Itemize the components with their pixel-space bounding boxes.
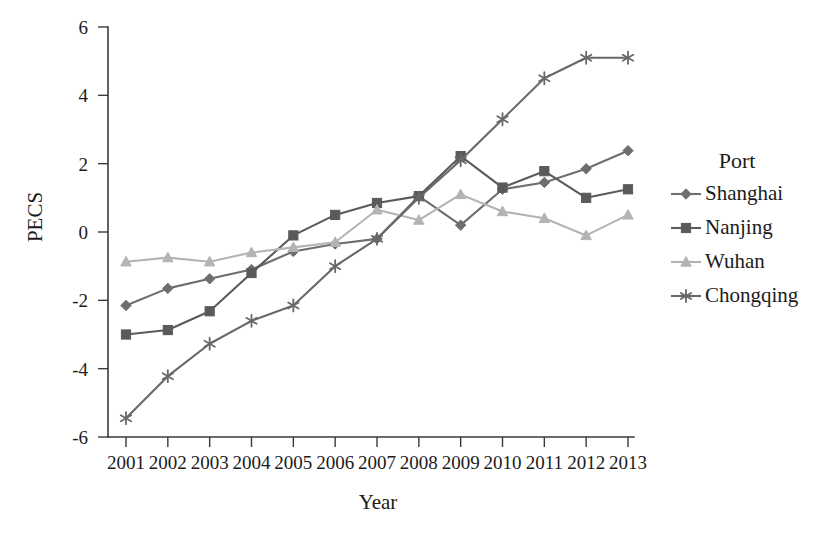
legend-item-shanghai[interactable]: Shanghai: [671, 181, 783, 205]
data-point-marker: [204, 274, 214, 284]
data-point-marker: [540, 167, 549, 176]
x-tick-label: 2009: [442, 452, 480, 473]
data-point-marker: [582, 193, 591, 202]
legend-item-label: Chongqing: [705, 283, 799, 307]
data-point-marker: [623, 185, 632, 194]
y-tick-label: 2: [79, 154, 89, 175]
y-tick-label: 4: [79, 85, 89, 106]
y-axis: -6-4-20246: [72, 17, 108, 448]
legend-item-chongqing[interactable]: Chongqing: [671, 283, 799, 307]
data-point-marker: [623, 210, 633, 220]
legend-item-label: Wuhan: [705, 249, 765, 273]
y-tick-label: -4: [72, 359, 88, 380]
x-tick-label: 2008: [400, 452, 438, 473]
chart-figure: -6-4-20246 20012002200320042005200620072…: [0, 0, 833, 534]
x-axis: 2001200220032004200520062007200820092010…: [107, 437, 647, 473]
x-tick-label: 2010: [484, 452, 522, 473]
x-tick-label: 2013: [609, 452, 647, 473]
x-tick-label: 2003: [191, 452, 229, 473]
data-point-marker: [247, 268, 256, 277]
y-tick-label: -2: [72, 290, 88, 311]
data-point-marker: [498, 183, 507, 192]
legend-item-wuhan[interactable]: Wuhan: [671, 249, 765, 273]
x-tick-label: 2005: [274, 452, 312, 473]
x-tick-label: 2011: [526, 452, 563, 473]
chart-legend: PortShanghaiNanjingWuhanChongqing: [671, 148, 799, 307]
x-tick-label: 2001: [107, 452, 145, 473]
data-point-marker: [581, 164, 591, 174]
data-point-marker: [455, 189, 465, 199]
y-tick-label: -6: [72, 427, 88, 448]
x-tick-label: 2004: [233, 452, 272, 473]
series-shanghai: [121, 145, 633, 310]
data-point-marker: [539, 177, 549, 187]
x-tick-label: 2007: [358, 452, 396, 473]
y-tick-label: 0: [79, 222, 89, 243]
data-point-marker: [121, 300, 131, 310]
legend-title: Port: [719, 148, 756, 173]
data-point-marker: [121, 330, 130, 339]
y-axis-title: PECS: [23, 192, 47, 242]
data-point-marker: [623, 145, 633, 155]
data-point-marker: [204, 338, 214, 350]
x-tick-label: 2006: [316, 452, 354, 473]
data-point-marker: [331, 210, 340, 219]
data-point-marker: [681, 189, 691, 199]
series-line: [126, 151, 628, 306]
data-point-marker: [163, 283, 173, 293]
x-tick-label: 2012: [567, 452, 605, 473]
legend-item-nanjing[interactable]: Nanjing: [671, 215, 773, 239]
data-point-marker: [205, 307, 214, 316]
x-tick-label: 2002: [149, 452, 187, 473]
x-axis-title: Year: [359, 490, 398, 514]
data-point-marker: [681, 223, 690, 232]
series-chongqing: [121, 52, 633, 424]
y-tick-label: 6: [79, 17, 89, 38]
data-point-marker: [246, 315, 256, 327]
legend-item-label: Nanjing: [705, 215, 773, 239]
legend-item-label: Shanghai: [705, 181, 783, 205]
data-series-group: [121, 52, 633, 424]
data-point-marker: [163, 325, 172, 334]
data-point-marker: [289, 231, 298, 240]
line-chart-canvas: -6-4-20246 20012002200320042005200620072…: [0, 0, 833, 534]
